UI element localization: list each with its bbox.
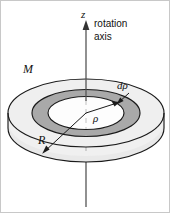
disk-radius-label: R [37, 133, 46, 147]
disk-rotation-diagram: z rotation axis M dρ ρ R [1, 1, 170, 213]
annulus-thickness-label: dρ [117, 79, 128, 91]
up-arrow-icon [83, 20, 90, 30]
annulus-radius-label: ρ [92, 112, 98, 124]
rotation-caption-line1: rotation [94, 18, 127, 29]
z-axis-label: z [80, 8, 86, 20]
figure-canvas: z rotation axis M dρ ρ R [0, 0, 170, 213]
rotation-caption-line2: axis [94, 31, 112, 42]
disk-mass-label: M [22, 62, 34, 76]
